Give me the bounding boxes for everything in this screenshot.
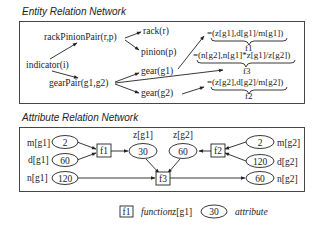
attribute-d-g1: d[g1] 60 bbox=[28, 154, 78, 167]
attribute-n-g1: n[g1] 120 bbox=[27, 172, 78, 185]
attribute-name: d[g2] bbox=[277, 157, 298, 167]
formula-f3-expr: =(n[g2],n[g1]*z[g1]/z[g2]) bbox=[193, 50, 290, 60]
attribute-value: 60 bbox=[60, 156, 70, 166]
entity-network-title: Entity Relation Network bbox=[22, 6, 127, 17]
attribute-name: d[g1] bbox=[28, 155, 49, 165]
legend-function-label: function bbox=[141, 207, 172, 217]
formula-f3-label: f3 bbox=[243, 66, 251, 76]
attribute-value: 120 bbox=[58, 174, 73, 184]
attribute-m-g2: 2 m[g2] bbox=[246, 136, 300, 149]
attribute-network-title: Attribute Relation Network bbox=[21, 112, 139, 123]
function-f2: f2 bbox=[211, 144, 225, 157]
function-label: f2 bbox=[214, 146, 222, 156]
attribute-z-g1: z[g1] 30 bbox=[129, 130, 157, 159]
attribute-value: 30 bbox=[138, 147, 148, 157]
attribute-name: m[g1] bbox=[27, 138, 50, 148]
attribute-value: 2 bbox=[63, 138, 68, 148]
legend-attribute-label: attribute bbox=[235, 207, 268, 217]
function-f1: f1 bbox=[97, 144, 111, 157]
formula-f1-expr: =(z[g1],d[g1]/m[g1]) bbox=[207, 28, 283, 38]
diagram-canvas: Entity Relation Network indicator(i) rac… bbox=[0, 0, 322, 232]
legend: f1 function z[g1] 30 attribute bbox=[120, 205, 268, 218]
attribute-name: m[g2] bbox=[277, 138, 300, 148]
attribute-name: n[g2] bbox=[277, 174, 298, 184]
attribute-value: 60 bbox=[178, 147, 188, 157]
entity-gear-g1: gear(g1) bbox=[141, 66, 173, 77]
legend-attribute-value: 30 bbox=[209, 207, 219, 217]
attribute-value: 2 bbox=[258, 138, 263, 148]
legend-attribute: z[g1] 30 attribute bbox=[172, 205, 268, 218]
entity-pinion: pinion(p) bbox=[141, 47, 176, 58]
formula-f2-label: f2 bbox=[245, 91, 253, 101]
entity-rack-pinion-pair: rackPinionPair(r,p) bbox=[44, 32, 117, 43]
attribute-value: 120 bbox=[253, 157, 268, 167]
formula-f2-expr: =(z[g2],d[g2]/m[g2]) bbox=[207, 77, 283, 87]
legend-attribute-name: z[g1] bbox=[172, 207, 192, 217]
attribute-name: n[g1] bbox=[27, 173, 48, 183]
attribute-name: z[g1] bbox=[133, 130, 153, 140]
legend-function: f1 function bbox=[120, 206, 172, 217]
function-label: f1 bbox=[100, 146, 108, 156]
attribute-m-g1: m[g1] 2 bbox=[27, 136, 78, 149]
legend-function-box: f1 bbox=[123, 207, 131, 217]
attribute-z-g2: z[g2] 60 bbox=[169, 130, 197, 159]
function-label: f3 bbox=[159, 174, 167, 184]
attribute-d-g2: 120 d[g2] bbox=[246, 155, 298, 168]
entity-rack: rack(r) bbox=[143, 26, 169, 37]
attribute-n-g2: 60 n[g2] bbox=[246, 172, 298, 185]
attribute-value: 60 bbox=[255, 174, 265, 184]
function-f3: f3 bbox=[156, 172, 170, 185]
entity-gear-g2: gear(g2) bbox=[141, 88, 173, 99]
formula-f2: =(z[g2],d[g2]/m[g2]) f2 bbox=[207, 77, 287, 101]
attribute-name: z[g2] bbox=[173, 130, 193, 140]
entity-indicator: indicator(i) bbox=[26, 60, 69, 71]
entity-gear-pair: gearPair(g1,g2) bbox=[49, 78, 108, 89]
